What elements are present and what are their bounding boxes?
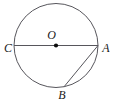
point-label-a: A <box>101 41 110 55</box>
circle-geometry-figure: O C A B <box>0 0 115 102</box>
point-label-o: O <box>47 28 56 42</box>
geometry-canvas: O C A B <box>0 0 115 102</box>
point-label-c: C <box>4 41 13 55</box>
point-label-b: B <box>58 88 66 102</box>
center-point-dot <box>54 43 58 47</box>
